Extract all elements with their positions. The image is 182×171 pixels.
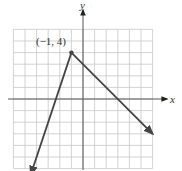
y-axis-label: y [79,0,85,11]
x-axis-label: x [169,93,175,105]
axes [8,10,167,170]
vertex-point [69,50,73,54]
graph: x y (−1, 4) [0,0,182,171]
vertex-label: (−1, 4) [36,35,66,48]
